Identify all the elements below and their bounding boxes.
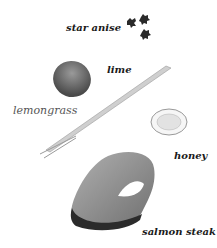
star-anise-label: star anise <box>66 22 121 33</box>
honey-image <box>148 106 190 140</box>
star-anise-image <box>122 12 158 42</box>
salmon-steak-image <box>68 150 158 232</box>
honey-label: honey <box>174 150 207 161</box>
salmon-steak-label: salmon steak <box>142 226 216 237</box>
